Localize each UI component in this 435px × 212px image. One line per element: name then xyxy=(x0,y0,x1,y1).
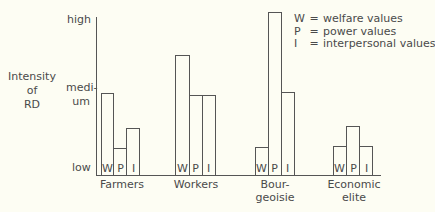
bar-letter-i: I xyxy=(202,162,215,175)
y-tick-medium-line1: medi- xyxy=(66,81,96,95)
y-axis-label: Intensity of RD xyxy=(6,70,58,112)
legend: W = welfare values P = power values I = … xyxy=(294,13,435,51)
category-label-bourgeoisie: Bour- geoisie xyxy=(249,178,301,204)
bar-letter-i: I xyxy=(360,162,373,175)
bar-letter-i: I xyxy=(281,162,294,175)
y-tick-medium-line2: um xyxy=(66,95,96,109)
y-axis-label-line: RD xyxy=(6,98,58,112)
bar-letter-p: P xyxy=(189,162,202,175)
y-axis-label-line: Intensity xyxy=(6,70,58,84)
bar-letter-w: W xyxy=(255,162,268,175)
bar-bourgeoisie-p xyxy=(268,12,282,176)
category-label-workers: Workers xyxy=(170,178,222,191)
bar-workers-w xyxy=(175,55,190,176)
y-tick-low: low xyxy=(72,162,91,174)
bar-letter-w: W xyxy=(101,162,114,175)
category-label-economic-elite: Economic elite xyxy=(324,178,384,204)
category-label-farmers: Farmers xyxy=(96,178,148,191)
bar-letter-p: P xyxy=(347,162,360,175)
bar-letter-i: I xyxy=(127,162,140,175)
y-tick-medium: medi- um xyxy=(66,81,96,109)
y-axis-line xyxy=(96,17,97,175)
legend-item-i: I = interpersonal values xyxy=(294,38,435,51)
bar-letter-w: W xyxy=(176,162,189,175)
bar-letter-p: P xyxy=(268,162,281,175)
bar-letter-p: P xyxy=(114,162,127,175)
y-axis-label-line: of xyxy=(6,84,58,98)
y-tick-high: high xyxy=(67,14,91,26)
bar-letter-w: W xyxy=(333,162,346,175)
